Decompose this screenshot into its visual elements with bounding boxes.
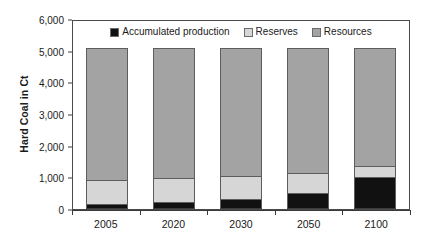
bar-column[interactable] <box>220 19 262 209</box>
bar-segment[interactable] <box>220 199 262 209</box>
bar-segment[interactable] <box>86 204 128 209</box>
y-axis-tick-labels: 01,0002,0003,0004,0005,0006,000 <box>0 0 72 249</box>
x-axis-tick-labels: 20052020203020502100 <box>72 218 410 230</box>
x-axis-tick-marks <box>72 210 410 215</box>
y-tick-label: 2,000 <box>39 141 64 152</box>
bar-column[interactable] <box>287 19 329 209</box>
x-tick-label: 2020 <box>152 218 194 230</box>
bar-group <box>73 19 409 209</box>
bar-segment[interactable] <box>153 202 195 209</box>
stacked-bar-chart: Hard Coal in Ct 01,0002,0003,0004,0005,0… <box>0 0 428 249</box>
y-tick-label: 3,000 <box>39 110 64 121</box>
bar-column[interactable] <box>153 19 195 209</box>
x-tick-label: 2030 <box>220 218 262 230</box>
bar-column[interactable] <box>86 19 128 209</box>
bar-segment[interactable] <box>86 180 128 204</box>
bar-segment[interactable] <box>220 48 262 177</box>
bar-segment[interactable] <box>86 48 128 180</box>
bar-segment[interactable] <box>287 173 329 192</box>
x-tick-mark <box>72 210 73 215</box>
bar-segment[interactable] <box>220 176 262 198</box>
x-tick-label: 2050 <box>288 218 330 230</box>
bar-segment[interactable] <box>354 166 396 176</box>
y-tick-label: 1,000 <box>39 173 64 184</box>
bar-segment[interactable] <box>354 48 396 167</box>
bar-segment[interactable] <box>153 48 195 179</box>
plot-area: Accumulated productionReservesResources <box>72 20 410 210</box>
y-tick-label: 6,000 <box>39 15 64 26</box>
x-tick-mark <box>207 210 208 215</box>
y-tick-label: 5,000 <box>39 46 64 57</box>
bar-segment[interactable] <box>287 48 329 174</box>
x-tick-label: 2005 <box>85 218 127 230</box>
x-tick-mark <box>140 210 141 215</box>
bar-segment[interactable] <box>287 193 329 209</box>
x-tick-label: 2100 <box>355 218 397 230</box>
bar-segment[interactable] <box>153 178 195 201</box>
x-tick-mark <box>410 210 411 215</box>
x-tick-mark <box>275 210 276 215</box>
bar-segment[interactable] <box>354 177 396 209</box>
bar-column[interactable] <box>354 19 396 209</box>
y-tick-label: 0 <box>58 205 64 216</box>
x-tick-mark <box>342 210 343 215</box>
y-tick-label: 4,000 <box>39 78 64 89</box>
